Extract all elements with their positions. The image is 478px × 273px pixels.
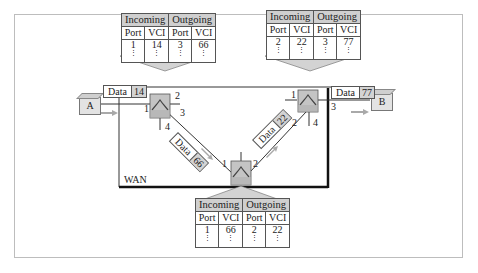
- cell: 22⋮: [266, 225, 290, 248]
- arrow-a-s1: [100, 110, 118, 116]
- cell: 3⋮: [169, 40, 192, 63]
- col-vci: VCI: [266, 212, 290, 225]
- col-vci: VCI: [337, 24, 361, 37]
- col-port: Port: [314, 24, 337, 37]
- arrow-s3-b: [351, 109, 369, 115]
- incoming-header: Incoming: [267, 11, 314, 24]
- col-vci: VCI: [219, 212, 243, 225]
- cell: 1⋮: [196, 225, 219, 248]
- switch2-port2-label: 2: [253, 159, 258, 169]
- cell: 66⋮: [219, 225, 243, 248]
- table-row: 1⋮ 14⋮ 3⋮ 66⋮: [122, 40, 216, 63]
- incoming-header: Incoming: [122, 14, 169, 27]
- cell: 2⋮: [267, 37, 290, 60]
- cell: 1⋮: [122, 40, 145, 63]
- col-port: Port: [196, 212, 219, 225]
- col-port: Port: [169, 27, 192, 40]
- frame-data-14: Data 14: [103, 85, 147, 98]
- switch3-port3-label: 3: [331, 102, 336, 112]
- cell: 22⋮: [290, 37, 314, 60]
- col-vci: VCI: [192, 27, 216, 40]
- outgoing-header: Outgoing: [169, 14, 216, 27]
- host-a[interactable]: A: [79, 97, 101, 115]
- cell: 77⋮: [337, 37, 361, 60]
- table-row: 1⋮ 66⋮ 2⋮ 22⋮: [196, 225, 290, 248]
- switch-1: [150, 94, 170, 118]
- switch1-port1-label: 1: [144, 104, 149, 114]
- switch1-port4-label: 4: [165, 122, 170, 132]
- frame-word: Data: [332, 87, 359, 98]
- switch3-port1-label: 1: [291, 90, 296, 100]
- col-vci: VCI: [145, 27, 169, 40]
- switch2-vc-table: Incoming Outgoing Port VCI Port VCI 1⋮ 6…: [195, 198, 290, 248]
- wan-label: WAN: [124, 174, 147, 185]
- switch3-port4-label: 4: [313, 118, 318, 128]
- switch1-port3-label: 3: [180, 108, 185, 118]
- col-vci: VCI: [290, 24, 314, 37]
- incoming-header: Incoming: [196, 199, 243, 212]
- switch2-port1-label: 1: [222, 159, 227, 169]
- col-port: Port: [243, 212, 266, 225]
- frame-data-77: Data 77: [331, 86, 375, 99]
- col-port: Port: [267, 24, 290, 37]
- frame-word: Data: [104, 86, 131, 97]
- frame-vci: 14: [131, 86, 146, 97]
- outgoing-header: Outgoing: [243, 199, 290, 212]
- switch1-port2-label: 2: [175, 91, 180, 101]
- cell: 3⋮: [314, 37, 337, 60]
- cell: 66⋮: [192, 40, 216, 63]
- col-port: Port: [122, 27, 145, 40]
- outgoing-header: Outgoing: [314, 11, 361, 24]
- cell: 2⋮: [243, 225, 266, 248]
- switch3-port2-label: 2: [292, 118, 297, 128]
- switch3-vc-table: Incoming Outgoing Port VCI Port VCI 2⋮ 2…: [266, 10, 361, 60]
- switch-3: [298, 90, 318, 112]
- switch1-vc-table: Incoming Outgoing Port VCI Port VCI 1⋮ 1…: [121, 13, 216, 63]
- frame-vci: 77: [359, 87, 374, 98]
- cell: 14⋮: [145, 40, 169, 63]
- switch-2: [231, 161, 251, 185]
- table-row: 2⋮ 22⋮ 3⋮ 77⋮: [267, 37, 361, 60]
